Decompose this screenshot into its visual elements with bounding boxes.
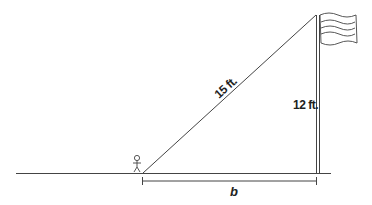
person-icon [133, 155, 141, 172]
hypotenuse-line [143, 15, 316, 173]
height-label: 12 ft. [293, 98, 318, 112]
base-label: b [230, 184, 238, 199]
flagpole [317, 15, 320, 173]
flagpole-triangle-diagram: 15 ft. 12 ft. b [0, 0, 372, 205]
flag-icon [320, 13, 357, 45]
